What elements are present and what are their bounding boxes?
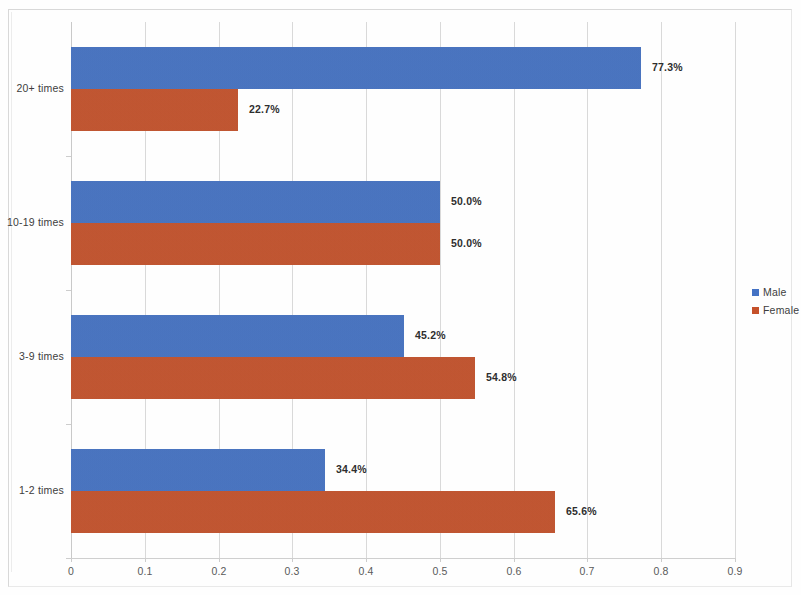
bar-fill (71, 449, 325, 491)
bar-male-10-19-times (71, 181, 440, 223)
legend-swatch-male-icon (752, 289, 759, 296)
legend-label-female: Female (763, 305, 799, 316)
bar-chart-figure: 00.10.20.30.40.50.60.70.80.9 20+ times10… (0, 0, 801, 595)
y-axis-tick-mark (66, 290, 71, 291)
gridline (514, 22, 515, 558)
gridline (735, 22, 736, 558)
bar-female-3-9-times (71, 357, 475, 399)
x-axis-tick-label: 0.9 (705, 565, 765, 577)
bar-fill (71, 181, 440, 223)
x-axis-line (71, 558, 736, 559)
bar-data-label: 77.3% (652, 61, 683, 73)
bar-male-1-2-times (71, 449, 325, 491)
bar-female-20-times (71, 89, 238, 131)
bar-data-label: 65.6% (566, 505, 597, 517)
bar-male-20-times (71, 47, 641, 89)
x-axis-tick-label: 0.8 (631, 565, 691, 577)
legend-label-male: Male (763, 287, 787, 298)
bar-data-label: 54.8% (486, 371, 517, 383)
x-axis-tick-label: 0.2 (189, 565, 249, 577)
y-axis-category-label: 10-19 times (7, 216, 64, 228)
bar-data-label: 22.7% (249, 103, 280, 115)
bar-fill (71, 223, 440, 265)
gridline (661, 22, 662, 558)
bar-male-3-9-times (71, 315, 404, 357)
y-axis-category-label: 20+ times (16, 82, 64, 94)
bar-fill (71, 491, 555, 533)
x-axis-tick-label: 0.1 (115, 565, 175, 577)
x-axis-tick-label: 0.3 (262, 565, 322, 577)
x-axis-tick-label: 0 (41, 565, 101, 577)
y-axis-category-label: 3-9 times (19, 350, 64, 362)
legend-item-male[interactable]: Male (752, 283, 799, 301)
bar-fill (71, 47, 641, 89)
bar-data-label: 50.0% (451, 237, 482, 249)
x-axis-tick-label: 0.4 (336, 565, 396, 577)
chart-legend: Male Female (752, 283, 799, 319)
gridline (366, 22, 367, 558)
gridline (440, 22, 441, 558)
bar-data-label: 34.4% (336, 463, 367, 475)
bar-fill (71, 357, 475, 399)
y-axis-tick-mark (66, 156, 71, 157)
legend-swatch-female-icon (752, 307, 759, 314)
bar-data-label: 50.0% (451, 195, 482, 207)
x-axis-tick-label: 0.6 (484, 565, 544, 577)
bar-female-1-2-times (71, 491, 555, 533)
y-axis-tick-mark (66, 424, 71, 425)
x-axis-tick-label: 0.7 (557, 565, 617, 577)
page-inner-rule (11, 12, 12, 572)
bar-fill (71, 89, 238, 131)
bar-fill (71, 315, 404, 357)
legend-item-female[interactable]: Female (752, 301, 799, 319)
y-axis-category-label: 1-2 times (19, 484, 64, 496)
bar-data-label: 45.2% (415, 329, 446, 341)
x-axis-tick-label: 0.5 (410, 565, 470, 577)
bar-female-10-19-times (71, 223, 440, 265)
gridline (587, 22, 588, 558)
y-axis-tick-mark (66, 558, 71, 559)
